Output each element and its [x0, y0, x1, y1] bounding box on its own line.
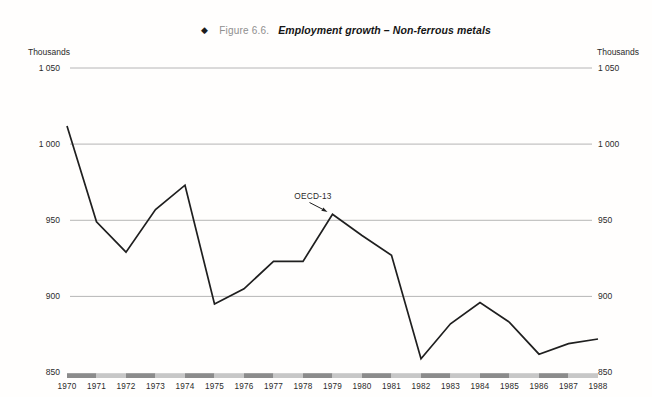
annotation-arrow: [310, 203, 323, 210]
x-axis-baseline-segment: [362, 373, 392, 378]
employment-line: [67, 126, 598, 359]
x-axis-baseline-segment: [215, 373, 245, 378]
x-axis-baseline-segment: [97, 373, 127, 378]
y-tick-label-left: 900: [0, 291, 60, 302]
x-tick-label: 1973: [141, 382, 171, 391]
x-tick-label: 1978: [288, 382, 318, 391]
y-tick-label-left: 950: [0, 215, 60, 226]
x-axis-baseline-segment: [421, 373, 451, 378]
x-axis-baseline-segment: [539, 373, 569, 378]
x-tick-label: 1983: [436, 382, 466, 391]
x-axis-baseline-segment: [333, 373, 363, 378]
x-tick-label: 1981: [377, 382, 407, 391]
x-tick-label: 1970: [52, 382, 82, 391]
x-axis-baseline-segment: [303, 373, 333, 378]
y-tick-label-right: 1 050: [598, 63, 652, 74]
x-axis-baseline-segment: [156, 373, 186, 378]
x-axis-baseline-segment: [126, 373, 156, 378]
x-tick-label: 1976: [229, 382, 259, 391]
y-tick-label-left: 1 000: [0, 139, 60, 150]
x-tick-label: 1984: [465, 382, 495, 391]
x-tick-label: 1986: [524, 382, 554, 391]
x-tick-label: 1988: [583, 382, 613, 391]
x-tick-label: 1987: [554, 382, 584, 391]
x-tick-label: 1971: [82, 382, 112, 391]
x-tick-label: 1974: [170, 382, 200, 391]
figure-page: ◆ Figure 6.6. Employment growth – Non-fe…: [0, 0, 652, 397]
x-axis-baseline-segment: [67, 373, 97, 378]
x-tick-label: 1980: [347, 382, 377, 391]
x-axis-baseline-segment: [480, 373, 510, 378]
y-tick-label-right: 850: [598, 367, 652, 378]
x-tick-label: 1975: [200, 382, 230, 391]
x-axis-baseline-segment: [274, 373, 304, 378]
x-tick-label: 1985: [495, 382, 525, 391]
x-axis-baseline-segment: [451, 373, 481, 378]
series-annotation-label: OECD-13: [287, 191, 339, 201]
x-axis-baseline-segment: [569, 373, 599, 378]
x-axis-baseline-segment: [244, 373, 274, 378]
x-tick-label: 1977: [259, 382, 289, 391]
x-axis-baseline-segment: [510, 373, 540, 378]
x-tick-label: 1972: [111, 382, 141, 391]
y-tick-label-right: 1 000: [598, 139, 652, 150]
y-tick-label-left: 1 050: [0, 63, 60, 74]
x-axis-baseline-segment: [392, 373, 422, 378]
annotation-arrowhead-icon: [321, 207, 327, 212]
y-tick-label-right: 900: [598, 291, 652, 302]
y-tick-label-right: 950: [598, 215, 652, 226]
x-tick-label: 1979: [318, 382, 348, 391]
x-axis-baseline-segment: [185, 373, 215, 378]
x-tick-label: 1982: [406, 382, 436, 391]
y-tick-label-left: 850: [0, 367, 60, 378]
